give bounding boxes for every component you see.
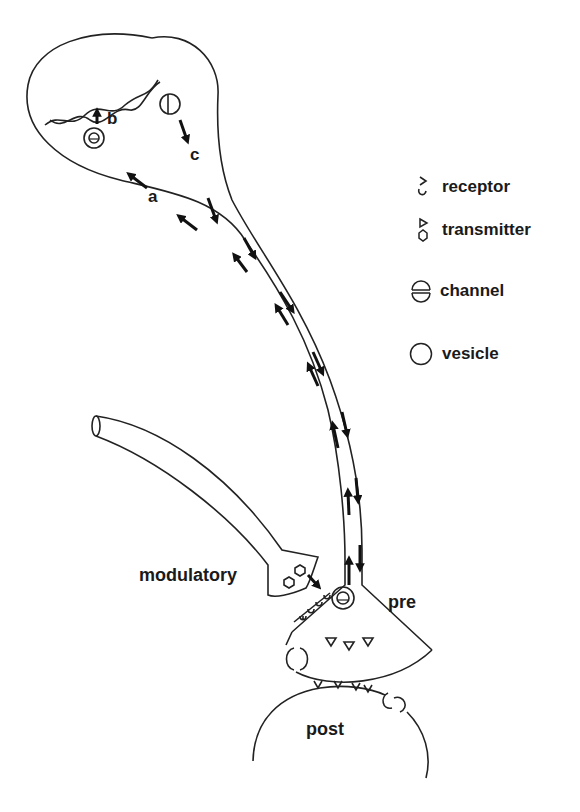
- legend-label-vesicle: vesicle: [442, 344, 499, 364]
- transmitter-triangle: [344, 642, 354, 650]
- legend-item-receptor: receptor: [412, 174, 510, 200]
- channel-icon: [287, 648, 308, 670]
- transmitter-triangle: [326, 638, 336, 646]
- label-a: a: [148, 187, 158, 206]
- legend-item-transmitter: transmitter: [412, 217, 531, 243]
- transmitter-hexagon: [295, 565, 305, 576]
- neuron-diagram: b c a: [0, 0, 580, 812]
- label-c: c: [190, 145, 199, 164]
- process-c: c: [160, 94, 199, 164]
- legend-item-vesicle: vesicle: [408, 341, 499, 367]
- label-pre: pre: [388, 592, 416, 612]
- channel-icon: [383, 693, 405, 712]
- vesicle-icon: [408, 341, 434, 367]
- label-modulatory: modulatory: [139, 565, 237, 585]
- label-b: b: [107, 109, 117, 128]
- channel-icon: [410, 278, 432, 304]
- soma-axon-right-contour: [152, 37, 432, 650]
- legend-item-channel: channel: [410, 278, 504, 304]
- legend-label-transmitter: transmitter: [442, 220, 531, 240]
- process-b: b: [84, 109, 117, 148]
- soma-axon-left-contour: [27, 34, 345, 632]
- transmitter-icon: [412, 217, 434, 243]
- legend-label-channel: channel: [440, 281, 504, 301]
- legend-label-receptor: receptor: [442, 177, 510, 197]
- anterograde-arrow: [208, 198, 216, 220]
- label-post: post: [306, 719, 344, 739]
- transmitter-triangle: [363, 638, 373, 646]
- process-a: a: [130, 175, 197, 230]
- transmitter-hexagon: [284, 577, 294, 588]
- postsynaptic-cell: post: [253, 681, 428, 778]
- presynaptic-terminal: pre: [287, 587, 417, 670]
- modulatory-neuron: modulatory: [92, 416, 318, 596]
- dna-helix-icon: [45, 80, 160, 125]
- presynaptic-receptors: [294, 593, 330, 622]
- receptor-icon: [412, 174, 434, 200]
